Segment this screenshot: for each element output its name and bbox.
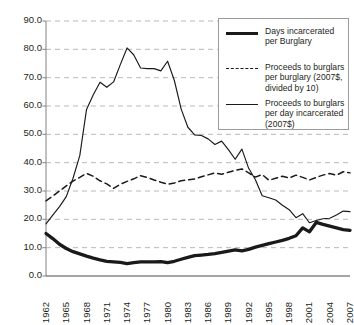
legend-label-line: Proceeds to burglars — [265, 98, 344, 108]
x-tick-label: 2001 — [304, 302, 314, 323]
y-tick-label: 0.0 — [0, 270, 42, 280]
y-tick-label: 70.0 — [0, 72, 42, 82]
x-tick-label: 2004 — [325, 302, 335, 323]
legend-label: Proceeds to burglarsper day incarcerated… — [265, 98, 344, 129]
x-tick-label: 1983 — [183, 302, 193, 323]
x-tick-label: 1974 — [122, 302, 132, 323]
legend-label-line: Proceeds to burglars — [265, 62, 344, 72]
x-tick-label: 1992 — [244, 302, 254, 323]
legend-item: Proceeds to burglarsper day incarcerated… — [224, 98, 344, 129]
y-tick-label: 10.0 — [0, 242, 42, 252]
legend-label-line: per Burglary — [265, 36, 312, 46]
legend-label-line: per burglary (2007$, — [265, 72, 342, 82]
series-line — [46, 169, 350, 201]
x-tick-label: 1980 — [163, 302, 173, 323]
legend-label-line: per day incarcerated — [265, 108, 343, 118]
y-tick-label: 20.0 — [0, 213, 42, 223]
legend-label-line: Days incarcerated — [265, 26, 334, 36]
x-tick-label: 1989 — [223, 302, 233, 323]
legend-line-swatch-icon — [224, 98, 260, 112]
legend-line-swatch-icon — [224, 62, 260, 76]
x-tick-label: 1995 — [264, 302, 274, 323]
y-tick-label: 90.0 — [0, 15, 42, 25]
legend-label: Proceeds to burglarsper burglary (2007$,… — [265, 62, 344, 93]
legend-line-swatch-icon — [224, 26, 260, 40]
y-tick-label: 80.0 — [0, 43, 42, 53]
y-tick-label: 30.0 — [0, 185, 42, 195]
x-tick-label: 1965 — [61, 302, 71, 323]
y-tick-label: 60.0 — [0, 100, 42, 110]
legend-label-line: (2007$) — [265, 119, 295, 129]
legend-label-line: divided by 10) — [265, 83, 319, 93]
y-tick-label: 50.0 — [0, 128, 42, 138]
legend-item: Days incarceratedper Burglary — [224, 26, 334, 47]
x-tick-label: 2007 — [345, 302, 354, 323]
y-axis-tick-labels: 90.080.070.060.050.040.030.020.010.00.0 — [0, 0, 42, 325]
x-tick-label: 1977 — [142, 302, 152, 323]
legend-label: Days incarceratedper Burglary — [265, 26, 334, 47]
x-tick-label: 1968 — [82, 302, 92, 323]
legend-item: Proceeds to burglarsper burglary (2007$,… — [224, 62, 344, 93]
x-tick-label: 1998 — [284, 302, 294, 323]
chart-legend: Days incarceratedper BurglaryProceeds to… — [218, 18, 349, 130]
series-line — [46, 222, 350, 263]
x-tick-label: 1986 — [203, 302, 213, 323]
y-tick-label: 40.0 — [0, 157, 42, 167]
x-tick-label: 1962 — [41, 302, 51, 323]
burglary-proceeds-line-chart: 90.080.070.060.050.040.030.020.010.00.0 … — [0, 0, 354, 325]
x-tick-label: 1971 — [102, 302, 112, 323]
